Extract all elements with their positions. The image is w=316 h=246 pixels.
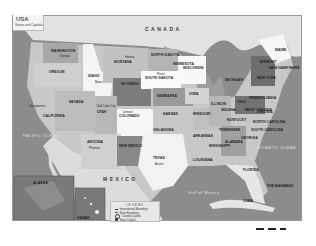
state-wyoming: WYOMING [121, 82, 139, 86]
state-illinois: ILLINOIS [211, 102, 226, 106]
map-title: USA [16, 16, 29, 22]
state-colorado: COLORADO [119, 114, 140, 118]
state-arizona: ARIZONA [87, 140, 103, 144]
capital-austin: Austin [155, 162, 163, 166]
state-idaho: IDAHO [88, 74, 99, 78]
state-arkansas: ARKANSAS [193, 134, 213, 138]
state-missouri: MISSOURI [193, 112, 211, 116]
state-kansas: KANSAS [163, 112, 178, 116]
country-label-mexico: MEXICO [103, 176, 138, 182]
state-alabama: ALABAMA [225, 140, 243, 144]
state-hawaii: HAWAII [77, 216, 90, 220]
state-south-carolina: SOUTH CAROLINA [251, 128, 283, 132]
state-oklahoma: OKLAHOMA [153, 128, 174, 132]
state-pennsylvania: PENNSYLVANIA [249, 96, 276, 100]
state-montana: MONTANA [114, 60, 132, 64]
state-wisconsin: WISCONSIN [183, 66, 204, 70]
capital-sacramento: Sacramento [29, 104, 45, 108]
capital-boise: Boise [95, 80, 103, 84]
state-alaska: ALASKA [33, 181, 48, 185]
capital-pierre: Pierre [157, 72, 165, 76]
water-label-pacific: PACIFIC OCEAN [23, 134, 59, 138]
usa-map: CANADA MEXICO CUBA PACIFIC OCEAN ATLANTI… [12, 15, 302, 221]
map-shapes [13, 16, 301, 220]
state-georgia: GEORGIA [241, 136, 258, 140]
state-utah: UTAH [97, 110, 107, 114]
state-iowa: IOWA [189, 92, 198, 96]
legend: LEGEND International Boundary State Boun… [110, 201, 160, 222]
state-florida: FLORIDA [243, 168, 259, 172]
state-new-mexico: NEW MEXICO [119, 144, 142, 148]
state-louisiana: LOUISIANA [193, 158, 213, 162]
place-bahamas: THE BAHAMAS [267, 184, 293, 188]
state-indiana: INDIANA [221, 108, 236, 112]
water-label-gulf: Gulf of Mexico [188, 191, 219, 195]
title-box: USA States and Capitals [13, 15, 44, 31]
state-nebraska: NEBRASKA [157, 94, 177, 98]
state-west-virginia: WEST VIRGINIA [245, 108, 272, 112]
state-texas: TEXAS [153, 156, 165, 160]
state-maine: MAINE [275, 48, 286, 52]
state-tennessee: TENNESSEE [219, 128, 240, 132]
state-oregon: OREGON [49, 70, 65, 74]
map-subtitle: States and Capitals [15, 23, 43, 27]
state-south-dakota: SOUTH DAKOTA [145, 76, 173, 80]
country-label-canada: CANADA [145, 26, 182, 32]
state-new-hampshire: NEW HAMPSHIRE [269, 66, 300, 70]
state-california: CALIFORNIA [43, 114, 65, 118]
state-new-york: NEW YORK [257, 76, 276, 80]
state-mississippi: MISSISSIPPI [209, 144, 230, 148]
state-nevada: NEVADA [69, 100, 84, 104]
capital-phoenix: Phoenix [89, 146, 100, 150]
capital-salt-lake: Salt Lake City [97, 104, 116, 108]
capital-olympia: Olympia [59, 54, 70, 58]
state-north-dakota: NORTH DAKOTA [151, 53, 179, 57]
state-north-carolina: NORTH CAROLINA [253, 120, 285, 124]
capital-helena: Helena [125, 55, 135, 59]
state-ohio: OHIO [237, 100, 246, 104]
legend-item: State Capital [115, 218, 136, 222]
state-washington: WASHINGTON [51, 49, 75, 53]
water-label-atlantic: ATLANTIC OCEAN [257, 146, 296, 150]
state-capital-icon [115, 218, 118, 221]
state-michigan: MICHIGAN [225, 78, 243, 82]
state-kentucky: KENTUCKY [227, 118, 247, 122]
state-vermont: VERMONT [259, 60, 277, 64]
scale-bar [256, 228, 286, 230]
country-label-cuba: CUBA [243, 199, 253, 203]
capital-denver: Denver [123, 110, 133, 114]
